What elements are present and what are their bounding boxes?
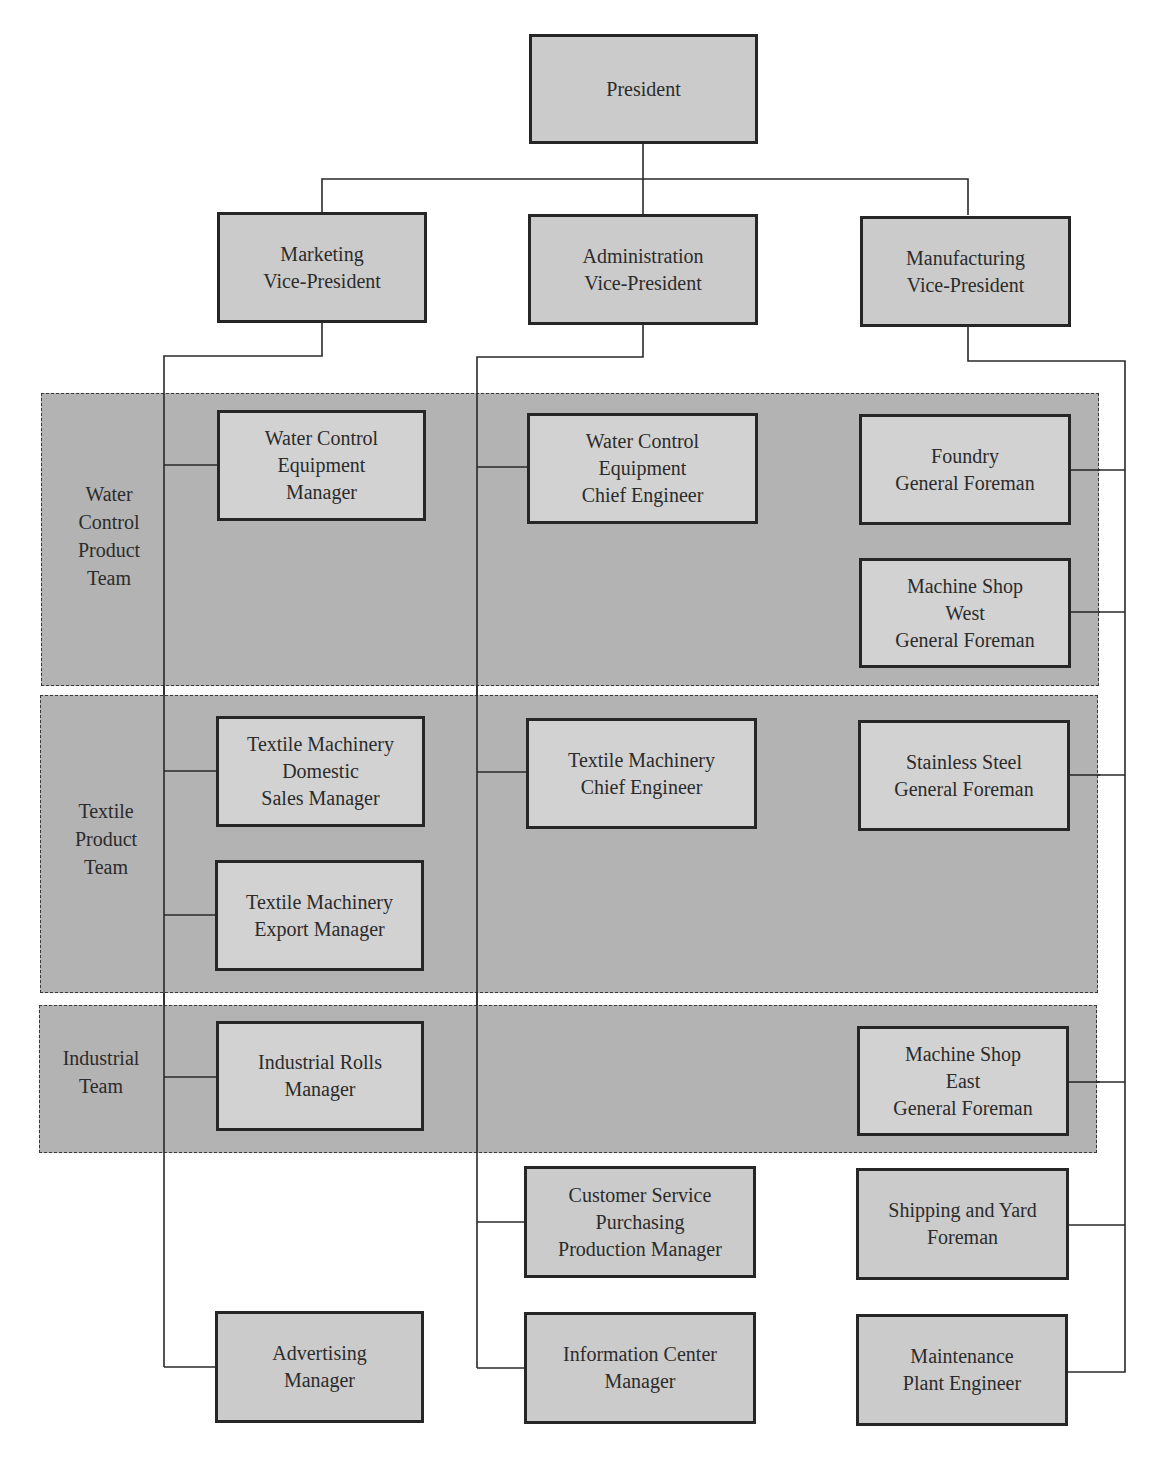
industrial-rolls-manager-box[interactable]: Industrial Rolls Manager [216, 1021, 424, 1131]
manufacturing-vp-box[interactable]: Manufacturing Vice-President [860, 216, 1071, 327]
stainless-steel-foreman-box[interactable]: Stainless Steel General Foreman [858, 720, 1070, 831]
foundry-general-foreman-box[interactable]: Foundry General Foreman [859, 414, 1071, 525]
water-control-chief-engineer-box[interactable]: Water Control Equipment Chief Engineer [527, 413, 758, 524]
shipping-yard-foreman-box[interactable]: Shipping and Yard Foreman [856, 1168, 1069, 1280]
marketing-vp-box[interactable]: Marketing Vice-President [217, 212, 427, 323]
president-box[interactable]: President [529, 34, 758, 144]
advertising-manager-box[interactable]: Advertising Manager [215, 1311, 424, 1423]
textile-export-manager-box[interactable]: Textile Machinery Export Manager [215, 860, 424, 971]
machine-shop-west-foreman-box[interactable]: Machine Shop West General Foreman [859, 558, 1071, 668]
team-label-textile: Textile Product Team [50, 797, 162, 881]
textile-chief-engineer-box[interactable]: Textile Machinery Chief Engineer [526, 718, 757, 829]
customer-service-production-manager-box[interactable]: Customer Service Purchasing Production M… [524, 1166, 756, 1278]
information-center-manager-box[interactable]: Information Center Manager [524, 1312, 756, 1424]
team-label-water-control: Water Control Product Team [55, 480, 163, 592]
machine-shop-east-foreman-box[interactable]: Machine Shop East General Foreman [857, 1026, 1069, 1136]
textile-domestic-sales-manager-box[interactable]: Textile Machinery Domestic Sales Manager [216, 716, 425, 827]
team-label-industrial: Industrial Team [45, 1044, 157, 1100]
administration-vp-box[interactable]: Administration Vice-President [528, 214, 758, 325]
maintenance-plant-engineer-box[interactable]: Maintenance Plant Engineer [856, 1314, 1068, 1426]
water-control-equipment-manager-box[interactable]: Water Control Equipment Manager [217, 410, 426, 521]
